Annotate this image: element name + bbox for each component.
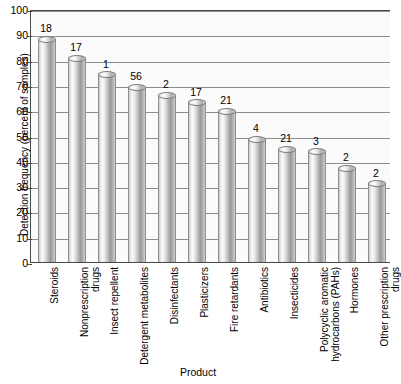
bar-value-label: 17 [70, 41, 82, 53]
bar-cap [38, 36, 57, 43]
x-tick-label-line: Nonprescription [79, 267, 90, 337]
bar-body [308, 152, 327, 262]
bar[interactable]: 3 [308, 152, 325, 262]
x-tick-label: Insecticides [289, 267, 300, 319]
x-tick-label-line: Polycyclic aromatic [319, 267, 330, 362]
x-tick-label-line: Steroids [49, 267, 60, 304]
bar-body [278, 149, 297, 262]
x-tick-label: Plasticizers [199, 267, 210, 318]
x-axis-title: Product [0, 366, 396, 378]
x-tick-label-line: Plasticizers [199, 267, 210, 318]
bar-value-label: 21 [280, 132, 292, 144]
y-axis-tick-labels: 0102030405060708090100 [0, 0, 28, 384]
y-tick-label: 90 [2, 30, 28, 40]
bar-cap [68, 55, 87, 62]
x-tick-label-line: Insecticides [289, 267, 300, 319]
bar-body [128, 87, 147, 262]
x-tick-label: Fire retardants [229, 267, 240, 332]
x-tick-label: Other prescriptiondrugs [379, 267, 401, 346]
bar[interactable]: 2 [338, 168, 355, 262]
bar-cap [218, 108, 237, 115]
x-tick-label: Insect repellent [109, 267, 120, 335]
x-tick-label-line: Disinfectants [169, 267, 180, 324]
bar-value-label: 21 [220, 94, 232, 106]
bar-value-label: 4 [253, 122, 259, 134]
x-tick-label: Nonprescriptiondrugs [79, 267, 101, 337]
bar-cap [248, 136, 267, 143]
bar[interactable]: 17 [188, 103, 205, 262]
bar-cap [158, 92, 177, 99]
bar[interactable]: 2 [368, 184, 385, 262]
x-tick-label: Disinfectants [169, 267, 180, 324]
bar-value-label: 1 [103, 58, 109, 70]
y-tick-label: 80 [2, 56, 28, 66]
bar[interactable]: 4 [248, 139, 265, 262]
x-tick-label: Hormones [349, 267, 360, 313]
plot-area: 181715621721421322 [30, 10, 390, 263]
bar-cap [368, 180, 387, 187]
x-tick-label-line: Other prescription [379, 267, 390, 346]
bar-body [68, 58, 87, 262]
x-tick-label-line: Detergent metabolites [139, 267, 150, 365]
bar[interactable]: 17 [68, 58, 85, 262]
x-tick-label-line: hydrocarbons (PAHs) [330, 267, 341, 362]
x-tick-label: Steroids [49, 267, 60, 304]
bar-value-label: 2 [343, 151, 349, 163]
bar-body [38, 39, 57, 262]
bar-body [248, 139, 267, 262]
x-tick-label-line: Hormones [349, 267, 360, 313]
bar[interactable]: 2 [158, 95, 175, 262]
bar[interactable]: 18 [38, 39, 55, 262]
bar[interactable]: 21 [278, 149, 295, 262]
bar-body [218, 111, 237, 262]
x-tick-label: Detergent metabolites [139, 267, 150, 365]
x-tick-label: Polycyclic aromatichydrocarbons (PAHs) [319, 267, 341, 362]
bar-value-label: 17 [190, 86, 202, 98]
x-axis-tick-labels: SteroidsNonprescriptiondrugsInsect repel… [30, 265, 390, 365]
bar-value-label: 2 [373, 167, 379, 179]
bar-body [368, 184, 387, 262]
bar-value-label: 56 [130, 70, 142, 82]
y-tick-label: 40 [2, 157, 28, 167]
bar-cap [338, 165, 357, 172]
y-tick-label: 60 [2, 106, 28, 116]
y-tick-label: 100 [2, 5, 28, 15]
bar-body [158, 95, 177, 262]
bar-value-label: 2 [163, 78, 169, 90]
bar-body [98, 75, 117, 262]
y-tick-label: 50 [2, 132, 28, 142]
bar-cap [128, 84, 147, 91]
y-tick-label: 20 [2, 207, 28, 217]
bar-series: 181715621721421322 [31, 11, 390, 262]
x-tick-label-line: Antibiotics [259, 267, 270, 313]
bar[interactable]: 21 [218, 111, 235, 262]
x-tick-label-line: Insect repellent [109, 267, 120, 335]
bar[interactable]: 56 [128, 87, 145, 262]
bar-cap [278, 146, 297, 153]
bar-body [188, 103, 207, 262]
bar-value-label: 18 [40, 22, 52, 34]
bar[interactable]: 1 [98, 75, 115, 262]
bar-cap [98, 71, 117, 78]
x-tick-label-line: Fire retardants [229, 267, 240, 332]
y-tick-label: 10 [2, 233, 28, 243]
x-tick-label: Antibiotics [259, 267, 270, 313]
x-tick-label-line: drugs [90, 267, 101, 337]
y-tick-label: 30 [2, 182, 28, 192]
bar-body [338, 168, 357, 262]
y-tick-label: 70 [2, 81, 28, 91]
y-tick-label: 0 [2, 258, 28, 268]
x-tick-label-line: drugs [390, 267, 401, 346]
bar-value-label: 3 [313, 135, 319, 147]
bar-cap [308, 148, 327, 155]
bar-cap [188, 99, 207, 106]
